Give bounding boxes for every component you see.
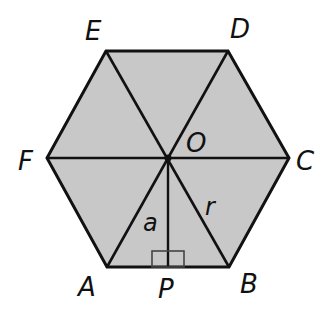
label-vertex-b: B bbox=[240, 269, 258, 299]
label-center-o: O bbox=[186, 128, 206, 158]
hexagon-diagram: E D F C A B O P a r bbox=[0, 0, 333, 314]
label-vertex-d: D bbox=[230, 14, 250, 44]
label-vertex-f: F bbox=[18, 146, 34, 176]
label-vertex-a: A bbox=[76, 272, 96, 302]
label-vertex-e: E bbox=[85, 16, 102, 46]
label-foot-p: P bbox=[158, 274, 174, 304]
label-apothem-a: a bbox=[143, 209, 158, 237]
center-point bbox=[165, 155, 172, 162]
label-vertex-c: C bbox=[296, 146, 315, 176]
